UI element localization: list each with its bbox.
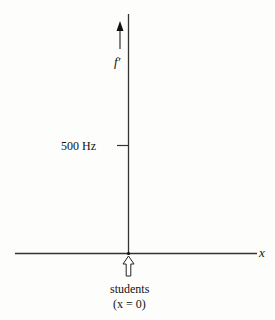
- students-label: students: [110, 282, 149, 296]
- position-label: (x = 0): [113, 297, 146, 311]
- tick-label-500hz: 500 Hz: [61, 139, 96, 153]
- origin-dot: [127, 252, 130, 255]
- diagram-canvas: [0, 0, 275, 320]
- up-arrow-icon: [117, 21, 124, 49]
- horizontal-axis-label: x: [259, 246, 265, 260]
- vertical-axis-label: f′: [114, 55, 120, 69]
- hollow-arrow-icon: [123, 256, 134, 276]
